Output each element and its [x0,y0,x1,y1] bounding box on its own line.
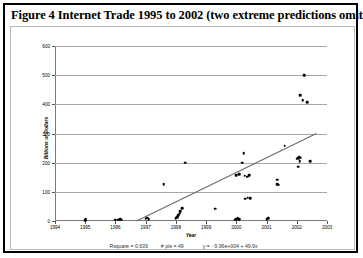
data-point [249,197,252,200]
x-tick-label: 2000 [231,225,241,230]
regression-stats: Rsquare = 0.639 # pts = 49 y = - 9.96e+0… [11,243,356,249]
y-tick-label: 600 [42,44,50,49]
x-tick-label: 2001 [261,225,271,230]
data-point [302,99,305,102]
x-tick-mark [55,221,56,224]
data-point [267,217,270,220]
equation-value: y = - 9.96e+004 + 49.9x [203,243,258,249]
figure-title: Figure 4 Internet Trade 1995 to 2002 (tw… [11,7,355,24]
data-point [147,218,150,221]
x-tick-mark [297,221,298,224]
x-tick-mark [267,221,268,224]
data-point [163,183,166,186]
data-point [214,207,217,210]
x-tick-mark [327,221,328,224]
data-point [238,173,241,176]
data-point [299,160,302,163]
y-tick-label: 500 [42,73,50,78]
x-tick-label: 1999 [201,225,211,230]
data-point [184,161,187,164]
y-tick-label: 100 [42,189,50,194]
data-point [306,101,309,104]
data-point [277,184,280,187]
x-tick-mark [146,221,147,224]
npts-value: # pts = 49 [161,243,184,249]
regression-line [55,46,327,221]
data-point [309,160,312,163]
x-tick-label: 1997 [141,225,151,230]
data-point [299,94,302,97]
data-point [276,178,279,181]
data-point [303,74,306,77]
chart-panel: Billions of Dollars 0100200300400500600 … [10,26,355,250]
x-tick-label: 1996 [110,225,120,230]
y-tick-label: 400 [42,102,50,107]
data-point [85,218,88,221]
figure-frame: Figure 4 Internet Trade 1995 to 2002 (tw… [3,3,358,253]
data-point [238,218,241,221]
data-point [283,144,286,147]
x-axis-label: Year [55,232,327,238]
x-tick-mark [176,221,177,224]
y-tick-label: 300 [42,131,50,136]
x-tick-mark [206,221,207,224]
data-point [120,219,123,222]
data-point [241,161,244,164]
data-point [248,174,251,177]
x-tick-label: 1995 [80,225,90,230]
y-tick-label: 200 [42,160,50,165]
data-point [297,165,300,168]
data-point [181,207,184,210]
x-tick-label: 1998 [171,225,181,230]
data-point [243,152,246,155]
x-tick-mark [236,221,237,224]
y-tick-label: 0 [47,219,50,224]
data-point [179,210,182,213]
x-tick-mark [85,221,86,224]
x-tick-label: 2002 [292,225,302,230]
rsquare-value: Rsquare = 0.639 [109,243,148,249]
y-axis-label: Billions of Dollars [43,117,49,160]
plot-area: 0100200300400500600 19941995199619971998… [55,46,327,221]
x-tick-label: 2003 [322,225,332,230]
x-tick-mark [115,221,116,224]
x-tick-label: 1994 [50,225,60,230]
data-point [299,156,302,159]
